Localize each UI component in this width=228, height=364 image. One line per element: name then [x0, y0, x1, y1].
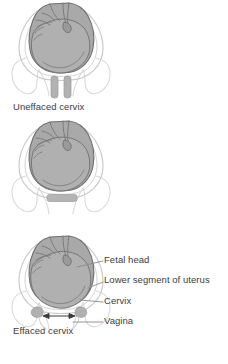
callout-fetal-head: Fetal head — [104, 254, 149, 265]
leader-line-cervix — [80, 300, 103, 302]
callout-cervix: Cervix — [104, 295, 131, 306]
cervical-dilation-figure: Uneffaced cervix — [0, 0, 228, 364]
leader-line-fetal-head — [77, 261, 103, 267]
leader-line-lower-segment — [88, 282, 103, 288]
callout-lower-segment-of-uterus: Lower segment of uterus — [104, 274, 210, 285]
callout-vagina: Vagina — [104, 315, 133, 326]
callout-leader-lines — [0, 0, 228, 364]
